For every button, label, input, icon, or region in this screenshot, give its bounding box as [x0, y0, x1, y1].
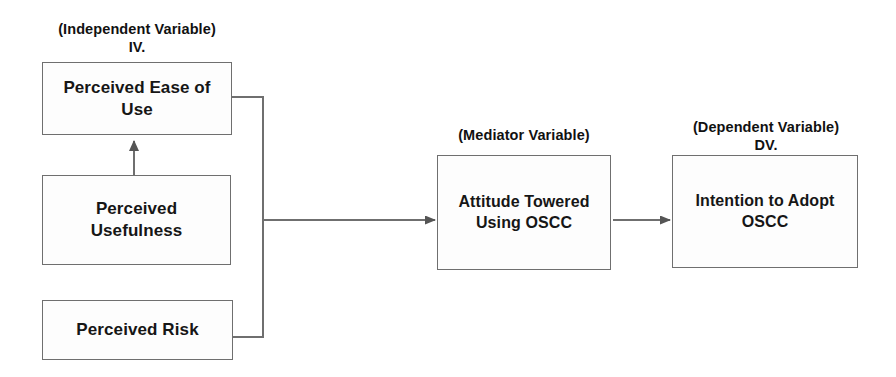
node-perceived-risk[interactable]: Perceived Risk [42, 300, 233, 360]
caption-independent-variable: (Independent Variable) IV. [24, 20, 250, 56]
node-perceived-usefulness[interactable]: Perceived Usefulness [42, 175, 231, 265]
node-label: Attitude Towered Using OSCC [438, 192, 610, 233]
diagram-canvas: (Independent Variable) IV. (Mediator Var… [0, 0, 896, 377]
node-label: Perceived Ease of Use [43, 77, 231, 121]
node-perceived-ease-of-use[interactable]: Perceived Ease of Use [42, 62, 232, 135]
edge-bus-to-attitude [212, 215, 435, 226]
caption-dependent-variable: (Dependent Variable) DV. [660, 118, 872, 154]
edge-risk-to-bus [233, 220, 263, 337]
edge-ease-to-bus [232, 97, 263, 220]
node-intention-to-adopt-oscc[interactable]: Intention to Adopt OSCC [672, 155, 858, 268]
caption-mediator-variable: (Mediator Variable) [430, 126, 618, 144]
node-attitude-towered-using-oscc[interactable]: Attitude Towered Using OSCC [437, 155, 611, 270]
node-label: Perceived Usefulness [43, 198, 230, 242]
node-label: Perceived Risk [70, 319, 204, 341]
node-label: Intention to Adopt OSCC [673, 191, 857, 232]
